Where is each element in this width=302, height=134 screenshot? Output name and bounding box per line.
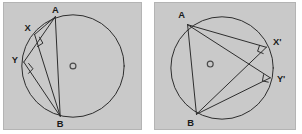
segment-yb-right bbox=[196, 78, 270, 114]
vertex-label-y-left: Y bbox=[12, 55, 19, 65]
center-point-right bbox=[207, 61, 213, 67]
center-point-left bbox=[70, 63, 76, 69]
circle-outline-left bbox=[22, 15, 124, 117]
segment-xb-right bbox=[196, 47, 266, 114]
segment-yb-left bbox=[24, 62, 60, 116]
vertex-label-x-left: X bbox=[25, 23, 32, 33]
vertex-label-b-left: B bbox=[57, 119, 64, 129]
vertex-label-y-right: Y' bbox=[277, 74, 285, 84]
circle-diagram-left-svg: A B X Y bbox=[4, 3, 141, 129]
vertex-label-a-left: A bbox=[52, 5, 59, 15]
vertex-label-b-right: B bbox=[187, 118, 194, 128]
circle-diagram-right-panel: A B X' Y' bbox=[154, 2, 296, 130]
vertex-label-a-right: A bbox=[178, 10, 185, 20]
diagram-canvas: A B X Y bbox=[0, 0, 302, 134]
circle-diagram-left-panel: A B X Y bbox=[3, 2, 142, 130]
circle-diagram-right-svg: A B X' Y' bbox=[155, 3, 295, 129]
vertex-label-x-right: X' bbox=[273, 37, 281, 47]
chord-ab-right bbox=[188, 25, 197, 115]
circle-outline-right bbox=[171, 17, 273, 119]
